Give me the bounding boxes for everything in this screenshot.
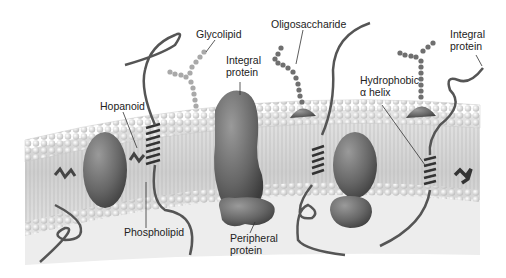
label-phospholipid: Phospholipid — [124, 226, 184, 238]
label-integral-protein-right: Integral protein — [450, 28, 485, 52]
label-oligosaccharide: Oligosaccharide — [271, 18, 346, 30]
label-integral-protein-left: Integral protein — [226, 54, 261, 78]
label-hopanoid: Hopanoid — [100, 100, 145, 112]
glycolipid-sugar-chain — [167, 49, 206, 108]
label-hydrophobic-helix: Hydrophobic α helix — [360, 74, 419, 98]
label-glycolipid: Glycolipid — [196, 28, 242, 40]
label-peripheral-protein-line2: protein — [230, 244, 278, 256]
label-hydrophobic-helix-line2: α helix — [360, 86, 419, 98]
label-peripheral-protein: Peripheral protein — [230, 232, 278, 256]
integral-protein-center — [214, 90, 263, 210]
label-integral-protein-right-line1: Integral — [450, 28, 485, 40]
label-integral-protein-right-line2: protein — [450, 40, 485, 52]
integral-protein-right-blob — [333, 132, 377, 198]
oligosaccharide-chain — [272, 45, 304, 104]
label-peripheral-protein-line1: Peripheral — [230, 232, 278, 244]
integral-protein-left-blob — [83, 132, 127, 208]
label-integral-protein-left-line2: protein — [226, 66, 261, 78]
label-hydrophobic-helix-line1: Hydrophobic — [360, 74, 419, 86]
label-integral-protein-left-line1: Integral — [226, 54, 261, 66]
peripheral-protein — [219, 197, 275, 226]
